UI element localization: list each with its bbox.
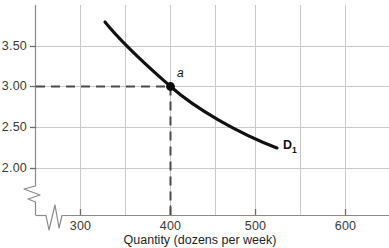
y-tick-label-3-50: 3.50 [0, 39, 27, 53]
horizontal-gridlines [35, 47, 389, 169]
x-tick-label-300: 300 [58, 219, 103, 233]
demand-curve-d1 [105, 22, 277, 148]
x-tick-label-400: 400 [148, 219, 193, 233]
curve-label-d1-subscript: 1 [292, 145, 297, 155]
point-a-label: a [177, 66, 184, 80]
y-tick-label-2-50: 2.50 [0, 120, 27, 134]
x-axis-ticks [81, 205, 346, 215]
chart-figure: 3.50 3.00 2.50 2.00 300 400 500 600 a D1… [0, 0, 389, 248]
vertical-gridlines [81, 5, 346, 215]
chart-canvas [0, 0, 389, 248]
y-tick-label-2-00: 2.00 [0, 161, 27, 175]
y-tick-label-3-00: 3.00 [0, 79, 27, 93]
x-axis-title: Quantity (dozens per week) [70, 233, 330, 247]
curve-label-d1: D1 [283, 138, 297, 155]
point-a-marker [166, 82, 175, 91]
curve-label-d1-text: D [283, 138, 292, 152]
x-tick-label-500: 500 [233, 219, 278, 233]
y-axis-break-icon [24, 186, 40, 202]
x-tick-label-600: 600 [323, 219, 368, 233]
